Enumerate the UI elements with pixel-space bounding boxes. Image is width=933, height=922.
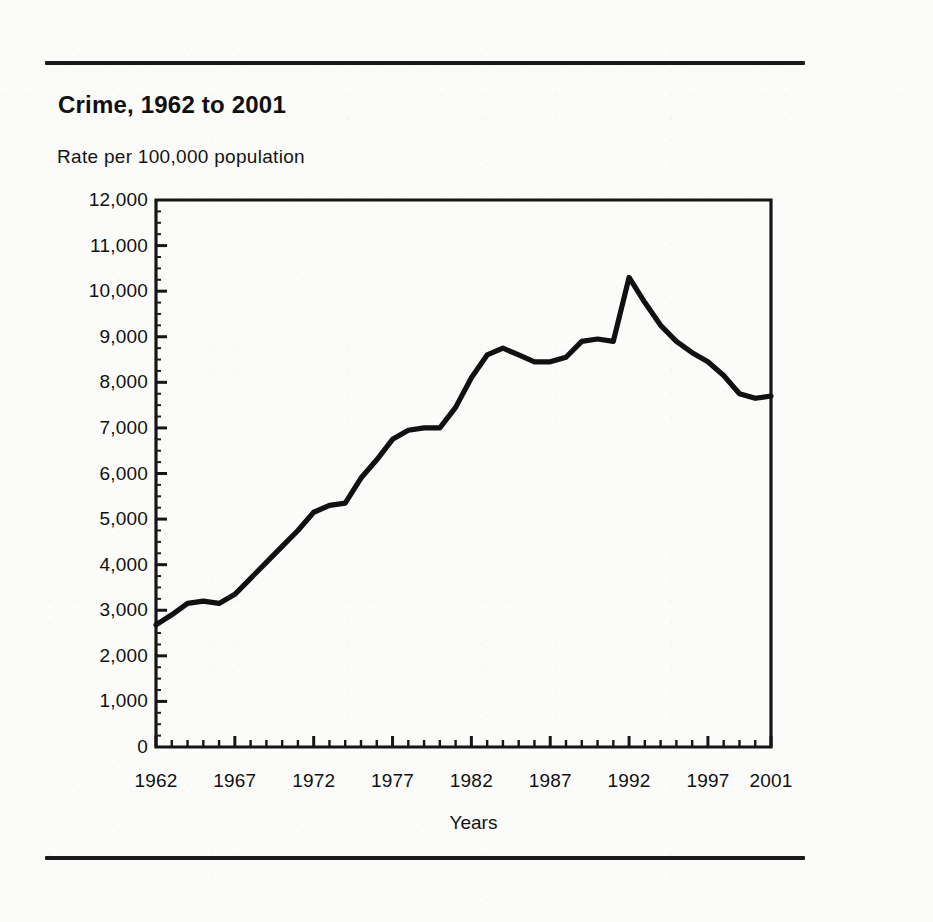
y-axis-tick-label: 9,000 [36,326,148,348]
y-axis-tick-label: 1,000 [36,690,148,712]
y-axis-tick-label: 0 [36,736,148,758]
x-axis-tick-label: 1992 [608,770,651,792]
y-axis-tick-label: 5,000 [36,508,148,530]
y-axis-tick-label: 10,000 [36,280,148,302]
x-axis-tick-label: 1982 [450,770,493,792]
figure-page: Crime, 1962 to 2001 Rate per 100,000 pop… [0,0,933,922]
chart-axes [156,200,771,747]
y-axis-tick-label: 12,000 [36,189,148,211]
y-axis-tick-label: 2,000 [36,645,148,667]
x-axis-tick-label: 1967 [213,770,256,792]
y-axis-tick-label: 6,000 [36,463,148,485]
x-axis-tick-label: 1997 [686,770,729,792]
x-axis-tick-label: 1987 [529,770,572,792]
y-axis-tick-label: 3,000 [36,599,148,621]
data-line-crime-rate [156,277,771,624]
plot-frame [156,200,771,747]
y-axis-tick-label: 4,000 [36,554,148,576]
x-axis-tick-label: 1977 [371,770,414,792]
x-axis-tick-label: 1972 [292,770,335,792]
y-axis-tick-label: 7,000 [36,417,148,439]
x-axis-tick-label: 1962 [134,770,177,792]
x-axis-tick-label: 2001 [749,770,792,792]
line-chart: 01,0002,0003,0004,0005,0006,0007,0008,00… [0,0,933,922]
y-axis-tick-label: 11,000 [36,235,148,257]
chart-series [156,277,771,624]
x-axis-title: Years [0,812,933,834]
y-axis-tick-label: 8,000 [36,371,148,393]
